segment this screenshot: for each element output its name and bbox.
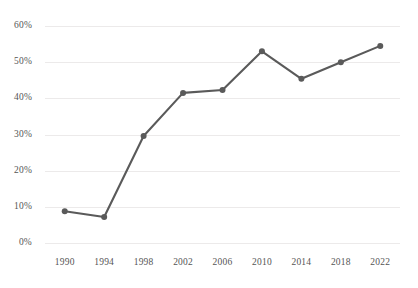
data-point-marker xyxy=(259,48,265,54)
data-point-marker xyxy=(220,87,226,93)
series-markers-group xyxy=(62,43,384,220)
data-point-marker xyxy=(298,76,304,82)
data-series-layer xyxy=(0,0,418,288)
data-point-marker xyxy=(180,90,186,96)
data-point-marker xyxy=(338,59,344,65)
line-chart-figure: 0%10%20%30%40%50%60% 1990199419982002200… xyxy=(0,0,418,288)
series-line xyxy=(65,46,381,217)
data-point-marker xyxy=(62,208,68,214)
data-point-marker xyxy=(377,43,383,49)
data-point-marker xyxy=(101,214,107,220)
data-point-marker xyxy=(141,133,147,139)
